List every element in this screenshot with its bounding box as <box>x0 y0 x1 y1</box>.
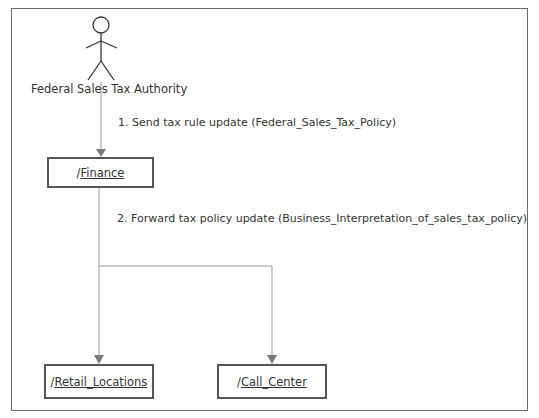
object-finance[interactable]: /Finance <box>47 157 154 188</box>
object-retail-locations[interactable]: /Retail_Locations <box>44 364 154 399</box>
object-call-center[interactable]: /Call_Center <box>217 364 327 399</box>
actor-label: Federal Sales Tax Authority <box>31 82 187 96</box>
object-name-retail-locations: Retail_Locations <box>54 375 147 389</box>
message-2-label: 2. Forward tax policy update (Business_I… <box>117 212 527 225</box>
message-1-label: 1. Send tax rule update (Federal_Sales_T… <box>118 116 396 129</box>
arrowhead-call-center <box>267 355 277 364</box>
object-name-call-center: Call_Center <box>241 375 307 389</box>
connector-layer <box>0 0 539 418</box>
actor-icon <box>86 17 117 80</box>
arrowhead-retail <box>94 355 104 364</box>
object-name-finance: Finance <box>80 166 124 180</box>
